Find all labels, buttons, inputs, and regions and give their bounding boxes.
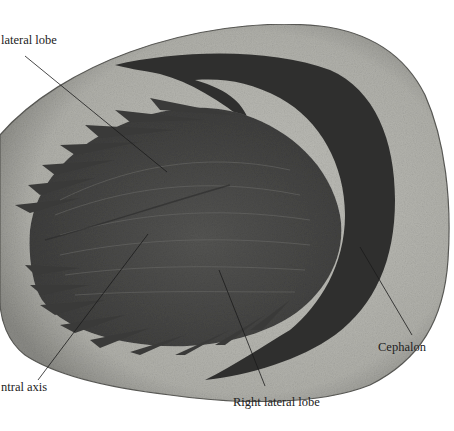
fossil-illustration [0,0,454,431]
label-central-axis: ntral axis [1,380,47,394]
label-right-lateral-lobe: Right lateral lobe [233,395,320,409]
fossil-figure: lateral lobe ntral axis Right lateral lo… [0,0,454,431]
label-left-lateral-lobe: lateral lobe [1,33,57,47]
label-cephalon: Cephalon [378,340,426,354]
